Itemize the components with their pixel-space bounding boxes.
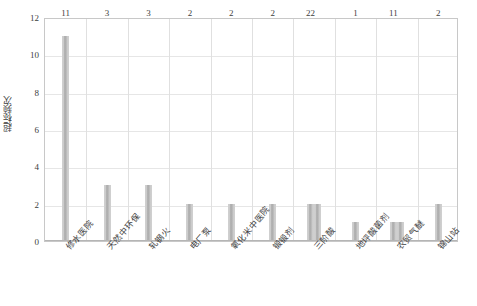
bar-group-1: 3 <box>86 19 127 241</box>
bar-value-label: 11 <box>389 9 398 18</box>
bar-group-6: 22 <box>293 19 334 241</box>
bar-value-label: 3 <box>146 9 151 18</box>
bar-value-label: 2 <box>188 9 193 18</box>
bar-value-label: 11 <box>61 9 70 18</box>
bar[interactable] <box>307 204 314 241</box>
bar-item[interactable]: 1 <box>352 19 359 241</box>
x-axis-baseline <box>45 240 457 241</box>
y-tick-0: 0 <box>35 238 40 247</box>
bar-group-5: 2 <box>252 19 293 241</box>
bar[interactable] <box>104 185 111 241</box>
y-axis-title: 超标频次 <box>2 96 16 132</box>
bar[interactable] <box>352 222 359 241</box>
bar-group-7: 1 <box>335 19 376 241</box>
bar-group-9: 2 <box>418 19 459 241</box>
bar-item[interactable] <box>314 19 321 241</box>
bar[interactable] <box>62 36 69 241</box>
bar-item[interactable]: 11 <box>62 19 69 241</box>
y-tick-12: 12 <box>30 14 39 23</box>
bar-value-label: 2 <box>229 9 234 18</box>
bar-item[interactable]: 11 <box>390 19 397 241</box>
bar-item[interactable]: 22 <box>307 19 314 241</box>
bar-item[interactable]: 2 <box>228 19 235 241</box>
bar[interactable] <box>435 204 442 241</box>
bar-value-label: 2 <box>436 9 441 18</box>
bar[interactable] <box>390 222 397 241</box>
y-tick-4: 4 <box>35 163 40 172</box>
bar-value-label: 1 <box>353 9 358 18</box>
bar-group-3: 2 <box>169 19 210 241</box>
bar-group-4: 2 <box>211 19 252 241</box>
bar-item[interactable]: 2 <box>186 19 193 241</box>
bar[interactable] <box>145 185 152 241</box>
bar-item[interactable] <box>397 19 404 241</box>
bar-group-2: 3 <box>128 19 169 241</box>
y-tick-6: 6 <box>35 126 40 135</box>
bar-item[interactable]: 3 <box>145 19 152 241</box>
x-axis-tick-labels: 修水医院 天然中环保 轧钢火 电厂泵 氧化米中医院 锻锻剂 三阶酸 地坪酸菌剂 … <box>44 242 458 306</box>
bar-chart: 超标频次 12 10 8 6 4 2 0 11 <box>0 0 477 306</box>
bar-value-label: 2 <box>270 9 275 18</box>
bar-item[interactable]: 2 <box>435 19 442 241</box>
bar-item[interactable]: 3 <box>104 19 111 241</box>
bar-item[interactable]: 2 <box>269 19 276 241</box>
bar-value-label: 22 <box>306 9 315 18</box>
y-tick-8: 8 <box>35 88 40 97</box>
y-tick-10: 10 <box>30 51 39 60</box>
bar-value-label: 3 <box>105 9 110 18</box>
bar[interactable] <box>228 204 235 241</box>
bar[interactable] <box>186 204 193 241</box>
bar-group-0: 11 <box>45 19 86 241</box>
plot-area: 11 3 3 2 <box>44 18 458 242</box>
bar-group-8: 11 <box>376 19 417 241</box>
y-tick-2: 2 <box>35 200 40 209</box>
y-axis-tick-labels: 12 10 8 6 4 2 0 <box>20 0 42 306</box>
